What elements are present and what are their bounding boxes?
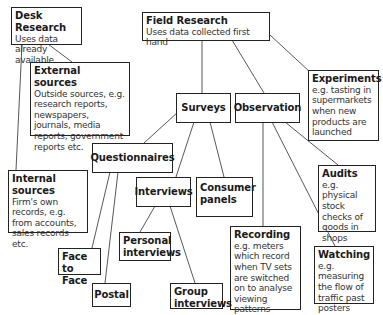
node-desc: e.g. physical stock checks of goods in s…	[322, 180, 372, 244]
node-external-sources: External sources Outside sources, e.g. r…	[30, 62, 130, 136]
node-desc: e.g. meters which record when TV sets ar…	[234, 241, 297, 315]
node-consumer-panels: Consumer panels	[196, 177, 253, 217]
node-title: External sources	[34, 65, 126, 89]
node-title: Group interviews	[174, 286, 219, 310]
node-group-interviews: Group interviews	[170, 283, 223, 309]
node-title: Experiments	[312, 73, 375, 85]
node-internal-sources: Internal sources Firm's own records, e.g…	[8, 170, 88, 233]
node-title: Desk Research	[15, 10, 78, 34]
node-observation: Observation	[235, 93, 300, 123]
node-title: Interviews	[134, 186, 192, 198]
node-title: Observation	[234, 102, 302, 114]
node-title: Personal interviews	[123, 235, 167, 259]
node-title: Audits	[322, 168, 372, 180]
node-title: Face to Face	[62, 251, 97, 286]
node-watching: Watching e.g. measuring the flow of traf…	[314, 246, 374, 304]
node-desc: e.g. tasting in supermarkets when new pr…	[312, 85, 375, 138]
node-experiments: Experiments e.g. tasting in supermarkets…	[308, 70, 379, 141]
node-title: Watching	[318, 249, 370, 261]
node-title: Internal sources	[12, 173, 84, 197]
node-title: Postal	[94, 289, 129, 301]
node-surveys: Surveys	[176, 93, 231, 123]
node-desc: Uses data already available	[15, 34, 78, 66]
node-title: Questionnaires	[90, 152, 174, 164]
node-face-to-face: Face to Face	[58, 248, 101, 275]
node-title: Recording	[234, 229, 297, 241]
node-questionnaires: Questionnaires	[92, 143, 173, 173]
node-title: Consumer panels	[200, 182, 249, 206]
node-interviews: Interviews	[136, 177, 191, 207]
node-desc: e.g. measuring the flow of traffic past …	[318, 261, 370, 314]
node-title: Field Research	[146, 15, 266, 27]
node-audits: Audits e.g. physical stock checks of goo…	[318, 165, 376, 232]
node-field-research: Field Research Uses data collected first…	[142, 12, 270, 41]
node-desc: Firm's own records, e.g. from accounts, …	[12, 197, 84, 250]
node-recording: Recording e.g. meters which record when …	[230, 226, 301, 310]
node-personal-interviews: Personal interviews	[119, 232, 171, 261]
node-desk-research: Desk Research Uses data already availabl…	[11, 7, 82, 45]
node-postal: Postal	[92, 283, 131, 307]
node-title: Surveys	[181, 102, 225, 114]
node-desc: Uses data collected first hand	[146, 27, 266, 48]
